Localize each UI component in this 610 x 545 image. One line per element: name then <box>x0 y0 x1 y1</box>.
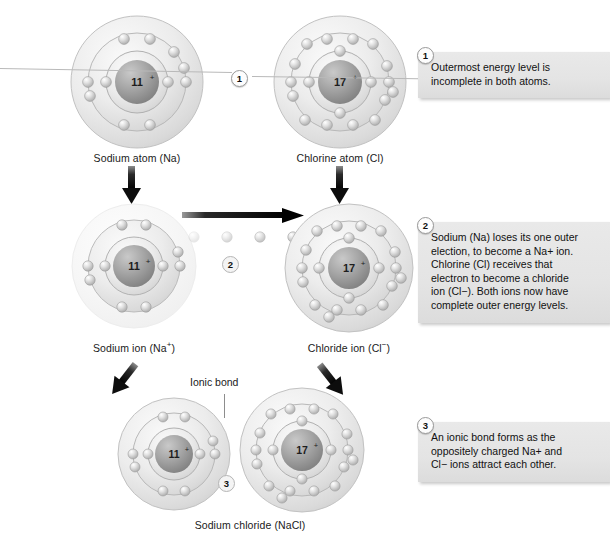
arrow-chlorine-down <box>328 166 352 206</box>
nacl-sodium: 11 + <box>112 396 236 512</box>
callout-3-line-3: Cl− ions attract each other. <box>431 458 599 472</box>
svg-text:11: 11 <box>168 448 179 460</box>
callout-2-line-3: Chlorine (Cl) receives that <box>431 258 599 272</box>
step-marker-2: 2 <box>417 217 434 234</box>
chlorine-atom: 17 + <box>265 14 415 150</box>
step-marker-3-inline: 3 <box>218 475 235 492</box>
arrow-sodium-down <box>120 166 144 206</box>
callout-3-line-2: oppositely charged Na+ and <box>431 445 599 459</box>
svg-text:17: 17 <box>343 262 355 274</box>
step-marker-3: 3 <box>417 417 434 434</box>
callout-2-line-2: election, to become a Na+ ion. <box>431 245 599 259</box>
chloride-ion-caption-tail: ) <box>387 342 391 354</box>
svg-text:+: + <box>146 257 151 266</box>
svg-text:+: + <box>150 73 155 82</box>
svg-text:+: + <box>185 445 190 454</box>
sodium-chloride-caption: Sodium chloride (NaCl) <box>150 519 350 531</box>
svg-text:+: + <box>314 441 319 450</box>
callout-2-line-6: complete outer energy levels. <box>431 299 599 313</box>
callout-3-line-1: An ionic bond forms as the <box>431 431 599 445</box>
svg-text:11: 11 <box>128 260 140 272</box>
svg-text:+: + <box>361 259 366 268</box>
sodium-ion-caption-tail: ) <box>171 342 175 354</box>
chloride-ion: 17 + <box>276 202 422 334</box>
step-marker-1-inline: 1 <box>231 70 248 87</box>
chloride-ion-caption: Chloride ion (Cl−) <box>276 340 422 354</box>
sodium-ion-caption: Sodium ion (Na+) <box>64 340 204 354</box>
callout-step-3: An ionic bond forms as the oppositely ch… <box>418 422 610 482</box>
callout-step-2: Sodium (Na) loses its one outer election… <box>418 222 610 323</box>
callout-step-1: Outermost energy level is incomplete in … <box>418 52 610 98</box>
step-marker-1: 1 <box>417 47 434 64</box>
chlorine-atom-caption: Chlorine atom (Cl) <box>265 152 415 164</box>
nacl-chlorine: 17 + <box>232 386 372 514</box>
svg-text:11: 11 <box>131 76 143 88</box>
sodium-atom-caption: Sodium atom (Na) <box>62 152 212 164</box>
chloride-ion-caption-text: Chloride ion (Cl <box>308 342 382 354</box>
callout-2-line-4: electron to become a chloride <box>431 272 599 286</box>
sodium-ion-caption-text: Sodium ion (Na <box>93 342 167 354</box>
callout-1-text: Outermost energy level is incomplete in … <box>431 61 599 88</box>
callout-2-line-1: Sodium (Na) loses its one outer <box>431 231 599 245</box>
sodium-atom: 11 + <box>62 14 212 150</box>
svg-text:17: 17 <box>296 444 308 456</box>
callout-2-line-5: ion (Cl−). Both ions now have <box>431 285 599 299</box>
step-marker-2-inline: 2 <box>222 256 239 273</box>
